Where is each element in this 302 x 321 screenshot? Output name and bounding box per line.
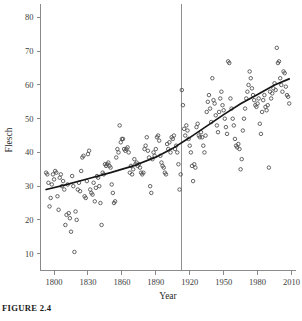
scatter-point [98,184,102,188]
scatter-point [133,157,137,161]
scatter-point [146,149,150,153]
scatter-point [72,184,76,188]
x-tick-label: 1800 [46,277,63,287]
scatter-point [87,149,91,153]
figure-container: 1020304050607080 18001830186018901920195… [0,0,302,321]
scatter-point [221,103,225,107]
scatter-point [186,129,190,133]
scatter-point [225,132,229,136]
scatter-point [281,90,285,94]
scatter-points-layer [44,46,291,254]
scatter-point [111,191,115,195]
scatter-point [216,130,220,134]
scatter-point [257,97,261,101]
y-tick-label: 70 [25,46,34,56]
scatter-point [92,181,96,185]
scatter-point [110,183,114,187]
scatter-point [150,191,154,195]
scatter-point [232,124,236,128]
scatter-point [200,136,204,140]
y-tick-label: 80 [25,12,34,22]
scatter-point [48,205,52,209]
scatter-point [182,127,186,131]
scatter-point [220,90,224,94]
scatter-point [189,151,193,155]
scatter-point [93,200,97,204]
scatter-point [231,117,235,121]
scatter-point [49,196,53,200]
y-axis-ticks [37,17,41,253]
scatter-point [73,250,77,254]
scatter-point [169,151,173,155]
x-tick-label: 1920 [181,277,198,287]
scatter-point [229,97,233,101]
scatter-point [247,83,251,87]
scatter-point [219,97,223,101]
scatter-point [70,174,74,178]
scatter-point [208,107,212,111]
scatter-point [224,125,228,129]
scatter-point [203,151,207,155]
scatter-point [250,87,254,91]
scatter-point [50,183,54,187]
scatter-point [178,188,182,192]
scatter-point [47,181,51,185]
x-axis-ticks [54,271,291,275]
scatter-point [240,157,244,161]
scatter-point [239,168,243,172]
scatter-point [94,186,98,190]
scatter-point [204,134,208,138]
scatter-point [56,195,60,199]
scatter-point [267,166,271,170]
y-axis-title: Flesch [4,127,14,152]
scatter-point [154,147,158,151]
scatter-point [252,98,256,102]
scatter-point [59,173,63,177]
scatter-point [51,173,55,177]
x-tick-label: 1830 [79,277,96,287]
y-tick-label: 10 [25,249,34,259]
scatter-point [185,124,189,128]
trend-line-layer [46,79,289,190]
scatter-point [145,136,149,140]
y-axis-tick-labels: 1020304050607080 [25,12,34,258]
scatter-point [57,208,61,212]
scatter-point [74,210,78,214]
scatter-point [246,90,250,94]
scatter-point [131,168,135,172]
y-tick-label: 40 [25,147,34,157]
x-tick-label: 1860 [113,277,130,287]
scatter-point [188,144,192,148]
x-tick-label: 1980 [249,277,266,287]
scatter-point [99,201,103,205]
x-tick-label: 1890 [147,277,164,287]
scatter-point [205,110,209,114]
scatter-point [249,76,253,80]
scatter-point [52,178,56,182]
scatter-point [62,188,66,192]
scatter-point [260,110,264,114]
scatter-point [265,109,269,113]
scatter-point [183,134,187,138]
scatter-point [64,223,68,227]
scatter-point [242,117,246,121]
scatter-point [69,230,73,234]
scatter-point [176,151,180,155]
scatter-point [191,179,195,183]
scatter-point [211,76,215,80]
scatter-point [144,144,148,148]
x-axis-tick-labels: 18001830186018901920195019802010 [46,277,300,287]
scatter-point [278,76,282,80]
scatter-point [243,107,247,111]
scatter-point [222,109,226,113]
scatter-point [217,110,221,114]
x-tick-label: 1950 [215,277,232,287]
scatter-point [157,139,161,143]
scatter-point [275,46,279,50]
scatter-point [280,83,284,87]
scatter-point [68,216,72,220]
trend-line [46,79,289,190]
y-tick-label: 60 [25,80,34,90]
scatter-point [61,179,65,183]
scatter-point [248,70,252,74]
